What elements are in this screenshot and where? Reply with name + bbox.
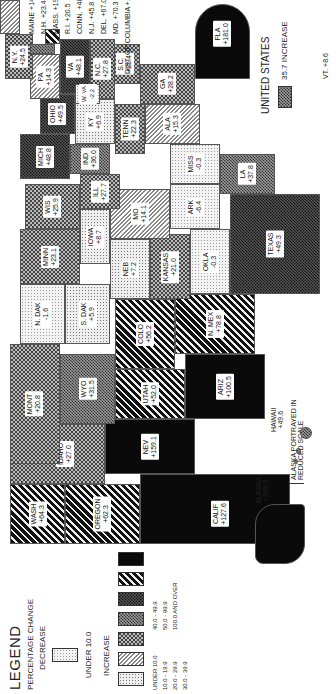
legend-increase-heading: INCREASE xyxy=(102,635,111,676)
national-label: UNITED STATES xyxy=(260,37,271,114)
label-maine: MAINE +14.4 xyxy=(28,0,35,34)
label-ny: N.Y.+24.5 xyxy=(10,46,28,68)
label-wyo: WYO+31.5 xyxy=(79,378,97,400)
label-utah: UTAH+52.0 xyxy=(141,383,159,406)
legend-swatch-100-over xyxy=(118,552,144,566)
label-ky: KY+6.9 xyxy=(86,113,104,131)
legend-label: UNDER 10.0 xyxy=(152,655,158,690)
label-ill: ILL+27.7 xyxy=(91,181,109,203)
legend-label: 50.0 - 99.9 xyxy=(162,601,168,630)
label-ark: ARK-6.4 xyxy=(186,198,204,216)
rotated-map-canvas: LEGEND PERCENTAGE CHANGE DECREASE UNDER … xyxy=(0,0,336,694)
label-mass: MASS. +19.3 xyxy=(52,0,59,34)
label-wis: WIS+25.9 xyxy=(43,196,61,218)
label-conn: CONN. +48.3 xyxy=(76,0,83,34)
label-sdak: S. DAK+5.9 xyxy=(79,301,97,328)
label-mo: MO+14.1 xyxy=(131,203,149,225)
label-colo: COLO+56.2 xyxy=(136,322,154,346)
legend-swatch-decrease xyxy=(52,648,78,662)
national-swatch xyxy=(278,86,292,108)
label-okla: OKLA-0.3 xyxy=(201,251,219,274)
label-nj: N.J. +45.8 xyxy=(88,2,95,34)
hawaii-island xyxy=(296,448,301,454)
label-ri: R.I. +20.5 xyxy=(64,3,71,34)
state-nj xyxy=(30,44,55,54)
label-va: VA+48.1 xyxy=(66,56,84,78)
legend-decrease-heading: DECREASE xyxy=(38,626,47,670)
label-tenn: TENN+22.3 xyxy=(121,117,139,140)
legend-swatch-50-99 xyxy=(118,572,144,586)
legend-label: UNDER 10.0 xyxy=(84,632,93,678)
label-oregon: OREGON+62.3 xyxy=(93,496,111,531)
legend-label: 20.0 - 29.9 xyxy=(172,661,178,690)
legend-label: 100.0 AND OVER xyxy=(172,582,178,630)
legend-swatch-40-49 xyxy=(118,592,144,606)
label-pa: PA+14.3 xyxy=(36,66,54,88)
label-md: MD. +70.3 xyxy=(112,1,119,34)
label-mont: MONT+20.8 xyxy=(25,392,43,417)
label-ohio: OHIO+49.5 xyxy=(48,103,66,125)
label-minn: MINN+23.1 xyxy=(41,246,59,268)
label-ga: GA+28.2 xyxy=(158,73,176,95)
hawaii-island xyxy=(294,459,298,464)
state-new-england xyxy=(0,0,20,34)
label-nev: NEV+159.1 xyxy=(141,434,159,460)
label-alaska: ALASKA+209.6 xyxy=(255,477,269,504)
label-ind: IND+36.0 xyxy=(81,148,99,170)
legend-swatch-30-39 xyxy=(118,612,144,626)
label-nmex: N. MEX+78.8 xyxy=(206,310,224,338)
national-value: 35.7 INCREASE xyxy=(280,21,289,80)
legend-title: LEGEND xyxy=(6,625,23,690)
label-calif: CALIF+127.6 xyxy=(211,501,229,527)
national-summary: UNITED STATES 35.7 INCREASE xyxy=(260,14,320,114)
label-dc: DIST. OF COLUMBIA +15.2 xyxy=(124,0,131,74)
label-nh: N.H. +23.4 xyxy=(40,0,47,34)
label-del: DEL. +67.0 xyxy=(100,0,107,34)
label-vt: VT. +8.6 xyxy=(322,53,329,79)
label-iowa: IOWA+8.7 xyxy=(86,226,104,248)
label-hawaii: HAWAII+49.6 xyxy=(270,408,284,432)
label-texas: TEXAS+49.3 xyxy=(266,231,284,258)
legend-label: 40.0 - 49.9 xyxy=(152,601,158,630)
label-wash: WASH+64.3 xyxy=(29,502,47,527)
label-nc: N.C.+27.8 xyxy=(93,58,111,80)
state-alaska xyxy=(255,504,305,564)
label-ala: ALA+15.3 xyxy=(163,113,181,135)
legend-swatch-10-19 xyxy=(118,652,144,666)
label-fla: FLA+181.0 xyxy=(213,21,231,47)
label-wva: W. VA-2.2 xyxy=(79,84,97,104)
label-ndak: N. DAK-1.6 xyxy=(33,300,51,327)
label-miss: MISS-0.3 xyxy=(186,153,204,174)
label-neb: NEB+7.2 xyxy=(121,260,139,278)
label-mich: MICH+48.8 xyxy=(36,146,54,168)
legend-subtitle: PERCENTAGE CHANGE xyxy=(26,599,35,690)
legend-label: 10.0 - 19.9 xyxy=(162,661,168,690)
legend-label: 30.0 - 39.9 xyxy=(182,661,188,690)
label-kansas: KANSAS+21.0 xyxy=(161,251,179,283)
legend-swatch-20-29 xyxy=(118,632,144,646)
legend-swatch-inc-under10 xyxy=(118,672,144,686)
label-ariz: ARIZ+100.5 xyxy=(216,374,234,400)
label-la: LA+37.8 xyxy=(238,163,256,185)
state-hawaii xyxy=(300,427,312,439)
